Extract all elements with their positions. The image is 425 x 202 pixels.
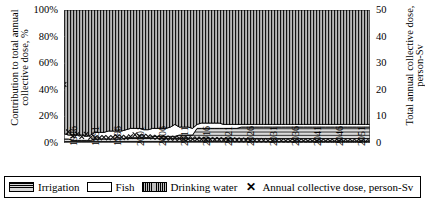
- y-axis-right-tick: 30: [376, 57, 400, 68]
- y-axis-right-tick: 40: [376, 31, 400, 42]
- x-axis-tick: 2001: [135, 126, 146, 146]
- legend-label-irrigation: Irrigation: [38, 181, 80, 193]
- legend-item-drinking-water[interactable]: Drinking water: [142, 181, 238, 193]
- chart-legend: Irrigation Fish Drinking water ✕ Annual …: [4, 176, 421, 198]
- legend-label-annual-dose: Annual collective dose, person-Sv: [262, 181, 413, 193]
- x-axis-tick: 1996: [112, 126, 123, 146]
- legend-label-drinking-water: Drinking water: [171, 181, 238, 193]
- x-axis-tick: 1986: [68, 126, 79, 146]
- y-axis-left-tick: 40%: [24, 84, 58, 95]
- x-axis-tick: 2036: [290, 126, 301, 146]
- y-axis-left-tick: 60%: [24, 57, 58, 68]
- x-axis-tick: 2046: [334, 126, 345, 146]
- x-axis-tick: 2011: [179, 126, 190, 146]
- drinking-water-swatch-icon: [142, 182, 167, 192]
- legend-item-irrigation[interactable]: Irrigation: [9, 181, 80, 193]
- y-axis-left-tick: 20%: [24, 110, 58, 121]
- y-axis-right-title-line2: person-Sv: [414, 0, 425, 136]
- legend-label-fish: Fish: [116, 181, 135, 193]
- x-axis-ticks: 1986199119962001200620112016202120262031…: [64, 145, 370, 175]
- plot-svg: [64, 10, 370, 143]
- area-series-drinking-water: [64, 10, 370, 136]
- chart-figure: Contribution to total annual collective …: [0, 0, 425, 202]
- y-axis-right-tick: 0: [376, 137, 400, 148]
- x-axis-tick: 1991: [90, 126, 101, 146]
- y-axis-right-tick: 50: [376, 4, 400, 15]
- legend-item-fish[interactable]: Fish: [87, 181, 135, 193]
- irrigation-swatch-icon: [9, 182, 34, 192]
- y-axis-right-tick: 10: [376, 110, 400, 121]
- x-axis-tick: 2006: [157, 126, 168, 146]
- x-marker-icon: ✕: [246, 180, 256, 195]
- x-axis-tick: 2026: [245, 126, 256, 146]
- x-axis-tick: 2051: [356, 126, 367, 146]
- x-axis-tick: 2031: [268, 126, 279, 146]
- plot-area: [64, 10, 370, 143]
- stacked-areas: [64, 10, 370, 143]
- fish-swatch-icon: [87, 182, 112, 192]
- y-axis-left-tick: 100%: [24, 4, 58, 15]
- y-axis-left-tick: 80%: [24, 31, 58, 42]
- x-axis-tick: 2041: [312, 126, 323, 146]
- x-axis-tick: 2016: [201, 126, 212, 146]
- y-axis-right-tick: 20: [376, 84, 400, 95]
- x-axis-tick: 2021: [223, 126, 234, 146]
- y-axis-left-tick: 0%: [24, 137, 58, 148]
- legend-item-annual-dose[interactable]: ✕ Annual collective dose, person-Sv: [244, 180, 413, 195]
